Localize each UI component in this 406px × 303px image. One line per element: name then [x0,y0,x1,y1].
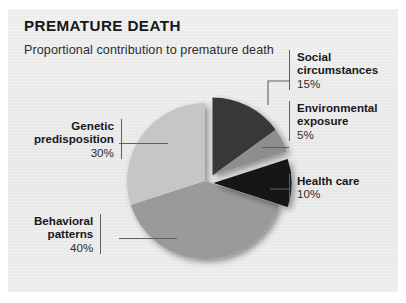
callout-genetic-percent: 30% [34,146,114,159]
callout-social-circumstances: Social circumstances 15% [289,50,378,90]
callout-health-care: Health care 10% [289,174,360,201]
callout-environmental-line1: Environmental [297,101,378,114]
callout-environmental-line2: exposure [297,114,378,127]
callout-environmental-exposure: Environmental exposure 5% [289,101,378,141]
callout-health-percent: 10% [297,187,360,200]
callout-social-line1: Social [297,50,378,63]
callout-behavioral-line2: patterns [34,227,93,240]
leader-line-social [268,81,289,105]
callout-genetic-line2: predisposition [34,132,114,145]
callout-social-percent: 15% [297,77,378,90]
infographic-figure: PREMATURE DEATH Proportional contributio… [0,0,406,303]
callout-health-line1: Health care [297,174,360,187]
callout-genetic-predisposition: Genetic predisposition 30% [34,119,122,159]
callout-behavioral-line1: Behavioral [34,214,93,227]
callout-social-line2: circumstances [297,63,378,76]
callout-behavioral-patterns: Behavioral patterns 40% [34,214,101,254]
callout-genetic-line1: Genetic [34,119,114,132]
callout-behavioral-percent: 40% [34,241,93,254]
callout-environmental-percent: 5% [297,128,378,141]
